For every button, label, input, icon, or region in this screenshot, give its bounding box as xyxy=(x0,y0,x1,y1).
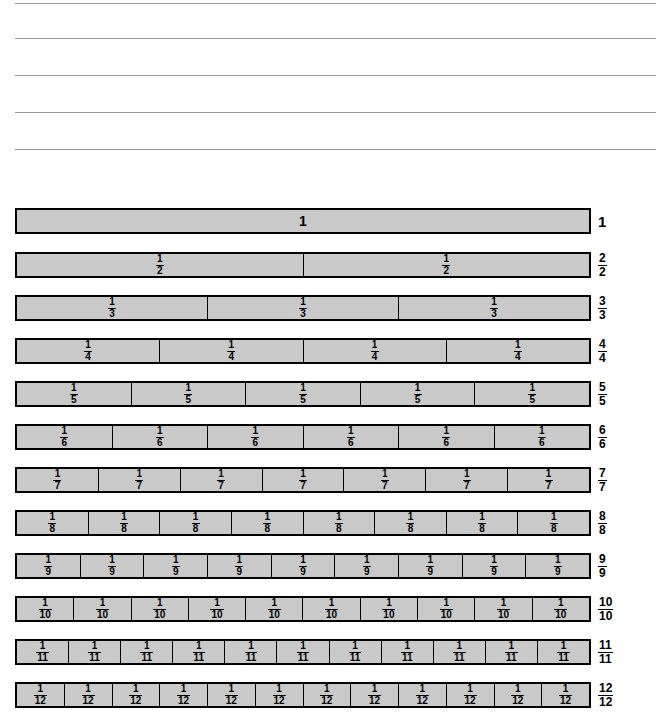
fraction-numerator: 1 xyxy=(335,512,343,522)
fraction-segment[interactable]: 16 xyxy=(17,426,113,448)
fraction-segment[interactable]: 13 xyxy=(399,297,589,319)
fraction-label: 112 xyxy=(416,684,429,706)
fraction-segment[interactable]: 16 xyxy=(208,426,304,448)
fraction-segment[interactable]: 17 xyxy=(426,469,508,491)
fraction-label: 77 xyxy=(598,467,607,493)
fraction-segment[interactable]: 14 xyxy=(160,340,303,362)
fraction-segment[interactable]: 111 xyxy=(17,641,69,663)
fraction-segment[interactable]: 19 xyxy=(335,555,399,577)
fraction-segment[interactable]: 19 xyxy=(208,555,272,577)
fraction-numerator: 1 xyxy=(545,469,553,479)
fraction-bar[interactable]: 1212 xyxy=(15,252,591,278)
fraction-segment[interactable]: 111 xyxy=(486,641,538,663)
fraction-segment[interactable]: 15 xyxy=(17,383,132,405)
fraction-segment[interactable]: 110 xyxy=(533,598,589,620)
fraction-segment[interactable]: 111 xyxy=(382,641,434,663)
fraction-segment[interactable]: 110 xyxy=(303,598,360,620)
fraction-segment[interactable]: 17 xyxy=(508,469,589,491)
fraction-segment[interactable]: 110 xyxy=(418,598,475,620)
fraction-numerator: 1 xyxy=(299,297,307,307)
fraction-segment[interactable]: 111 xyxy=(225,641,277,663)
fraction-segment[interactable]: 110 xyxy=(189,598,246,620)
fraction-segment[interactable]: 17 xyxy=(344,469,426,491)
fraction-segment[interactable]: 112 xyxy=(256,684,304,706)
fraction-segment[interactable]: 18 xyxy=(447,512,519,534)
fraction-segment[interactable]: 18 xyxy=(160,512,232,534)
fraction-segment[interactable]: 15 xyxy=(132,383,247,405)
fraction-segment[interactable]: 19 xyxy=(17,555,81,577)
fraction-segment[interactable]: 112 xyxy=(113,684,161,706)
fraction-segment[interactable]: 16 xyxy=(304,426,400,448)
fraction-bar[interactable]: 131313 xyxy=(15,295,591,321)
fraction-segment[interactable]: 18 xyxy=(304,512,376,534)
fraction-segment[interactable]: 16 xyxy=(113,426,209,448)
fraction-segment[interactable]: 111 xyxy=(538,641,589,663)
fraction-segment[interactable]: 19 xyxy=(526,555,589,577)
fraction-segment[interactable]: 112 xyxy=(208,684,256,706)
fraction-segment[interactable]: 18 xyxy=(518,512,589,534)
fraction-segment[interactable]: 1 xyxy=(17,210,589,232)
fraction-segment[interactable]: 14 xyxy=(304,340,447,362)
fraction-bar[interactable]: 1818181818181818 xyxy=(15,510,591,536)
fraction-bar[interactable]: 110110110110110110110110110110 xyxy=(15,596,591,622)
fraction-segment[interactable]: 112 xyxy=(447,684,495,706)
fraction-bar[interactable]: 112112112112112112112112112112112112 xyxy=(15,682,591,708)
fraction-segment[interactable]: 112 xyxy=(17,684,65,706)
fraction-segment[interactable]: 18 xyxy=(232,512,304,534)
fraction-segment[interactable]: 14 xyxy=(17,340,160,362)
fraction-segment[interactable]: 19 xyxy=(399,555,463,577)
fraction-segment[interactable]: 13 xyxy=(208,297,399,319)
fraction-segment[interactable]: 19 xyxy=(272,555,336,577)
fraction-numerator: 1 xyxy=(54,469,62,479)
fraction-segment[interactable]: 112 xyxy=(351,684,399,706)
fraction-segment[interactable]: 110 xyxy=(74,598,131,620)
fraction-segment[interactable]: 110 xyxy=(17,598,74,620)
fraction-segment[interactable]: 112 xyxy=(304,684,352,706)
fraction-segment[interactable]: 17 xyxy=(17,469,99,491)
fraction-segment[interactable]: 17 xyxy=(263,469,345,491)
fraction-segment[interactable]: 15 xyxy=(475,383,589,405)
fraction-bar[interactable]: 1 xyxy=(15,208,591,234)
fraction-segment[interactable]: 111 xyxy=(173,641,225,663)
fraction-segment[interactable]: 13 xyxy=(17,297,208,319)
fraction-segment[interactable]: 17 xyxy=(181,469,263,491)
fraction-bar[interactable]: 161616161616 xyxy=(15,424,591,450)
fraction-segment[interactable]: 112 xyxy=(65,684,113,706)
fraction-segment[interactable]: 112 xyxy=(399,684,447,706)
fraction-denominator: 3 xyxy=(598,309,607,321)
fraction-bar[interactable]: 111111111111111111111111111111111 xyxy=(15,639,591,665)
fraction-segment[interactable]: 110 xyxy=(246,598,303,620)
fraction-segment[interactable]: 19 xyxy=(81,555,145,577)
fraction-segment[interactable]: 18 xyxy=(17,512,89,534)
fraction-segment[interactable]: 16 xyxy=(399,426,495,448)
fraction-bar[interactable]: 14141414 xyxy=(15,338,591,364)
fraction-segment[interactable]: 111 xyxy=(69,641,121,663)
fraction-segment[interactable]: 19 xyxy=(144,555,208,577)
fraction-segment[interactable]: 18 xyxy=(375,512,447,534)
fraction-denominator: 8 xyxy=(49,524,57,534)
fraction-segment[interactable]: 12 xyxy=(304,254,590,276)
fraction-segment[interactable]: 12 xyxy=(17,254,304,276)
fraction-segment[interactable]: 15 xyxy=(361,383,476,405)
fraction-segment[interactable]: 15 xyxy=(246,383,361,405)
fraction-segment[interactable]: 111 xyxy=(121,641,173,663)
fraction-segment[interactable]: 112 xyxy=(495,684,543,706)
fraction-segment[interactable]: 112 xyxy=(160,684,208,706)
fraction-bar[interactable]: 17171717171717 xyxy=(15,467,591,493)
fraction-segment[interactable]: 111 xyxy=(330,641,382,663)
fraction-segment[interactable]: 112 xyxy=(542,684,589,706)
fraction-numerator: 1 xyxy=(347,426,355,436)
fraction-segment[interactable]: 18 xyxy=(89,512,161,534)
fraction-segment[interactable]: 110 xyxy=(475,598,532,620)
fraction-segment[interactable]: 111 xyxy=(434,641,486,663)
fraction-segment[interactable]: 14 xyxy=(447,340,589,362)
fraction-bar[interactable]: 1515151515 xyxy=(15,381,591,407)
fraction-segment[interactable]: 19 xyxy=(463,555,527,577)
fraction-segment[interactable]: 110 xyxy=(361,598,418,620)
fraction-segment[interactable]: 16 xyxy=(495,426,590,448)
fraction-segment[interactable]: 110 xyxy=(132,598,189,620)
fraction-bar[interactable]: 191919191919191919 xyxy=(15,553,591,579)
fraction-segment[interactable]: 17 xyxy=(99,469,181,491)
fraction-segment[interactable]: 111 xyxy=(277,641,329,663)
fraction-numerator: 1 xyxy=(156,598,164,608)
